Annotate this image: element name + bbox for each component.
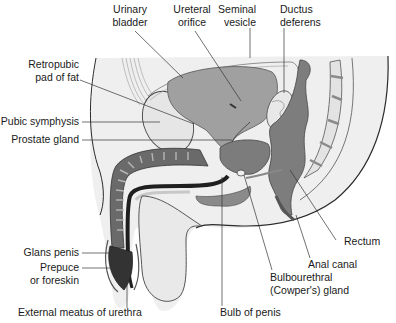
- label-seminal-vesicle: Seminal vesicle: [210, 3, 256, 29]
- label-line: bladder: [100, 16, 160, 29]
- label-bulb-of-penis: Bulb of penis: [220, 306, 281, 319]
- label-line: Bulbourethral: [270, 271, 349, 284]
- label-glans-penis: Glans penis: [0, 246, 79, 259]
- label-urinary-bladder: Urinary bladder: [100, 3, 160, 29]
- label-prostate-gland: Prostate gland: [0, 133, 79, 146]
- label-line: (Cowper's) gland: [270, 284, 349, 297]
- label-line: pad of fat: [0, 71, 79, 84]
- label-ductus-deferens: Ductus deferens: [280, 3, 340, 29]
- label-line: Ductus: [280, 3, 340, 16]
- label-line: vesicle: [210, 16, 256, 29]
- label-external-meatus: External meatus of urethra: [18, 306, 142, 319]
- label-prepuce: Prepuce or foreskin: [0, 261, 79, 287]
- label-retropubic-fat: Retropubic pad of fat: [0, 58, 79, 84]
- label-line: deferens: [280, 16, 340, 29]
- label-line: or foreskin: [0, 274, 79, 287]
- label-anal-canal: Anal canal: [308, 258, 357, 271]
- label-bulbourethral-gland: Bulbourethral (Cowper's) gland: [270, 271, 349, 297]
- label-line: Retropubic: [0, 58, 79, 71]
- anatomy-diagram: Urinary bladder Ureteral orifice Seminal…: [0, 0, 396, 323]
- label-rectum: Rectum: [344, 235, 380, 248]
- label-line: Urinary: [100, 3, 160, 16]
- label-pubic-symphysis: Pubic symphysis: [0, 115, 79, 128]
- label-line: Prepuce: [0, 261, 79, 274]
- label-line: Seminal: [210, 3, 256, 16]
